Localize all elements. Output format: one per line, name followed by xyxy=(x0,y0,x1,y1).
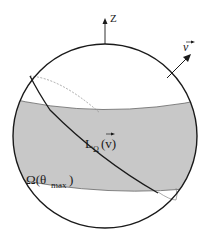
svg-text:max: max xyxy=(51,180,67,190)
sphere-diagram: Z v L Ω (v) Ω(θ max ) xyxy=(0,0,212,245)
svg-text:Ω(θ: Ω(θ xyxy=(26,172,46,187)
svg-text:Ω: Ω xyxy=(93,145,99,154)
svg-text:L: L xyxy=(85,136,93,151)
z-axis xyxy=(103,18,108,44)
svg-text:(v): (v) xyxy=(101,136,116,151)
z-axis-label: Z xyxy=(110,12,117,24)
v-vector xyxy=(167,54,191,78)
z-arrowhead-icon xyxy=(103,18,108,24)
great-circle-label: L Ω (v) xyxy=(85,133,116,155)
svg-text:): ) xyxy=(69,172,73,187)
